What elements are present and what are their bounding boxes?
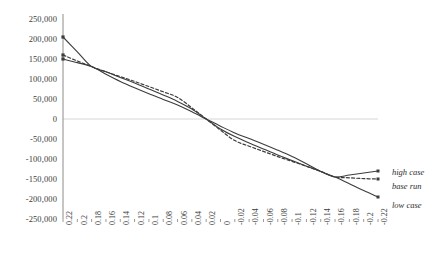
legend-anchor-marker xyxy=(377,170,380,173)
data-series-layer xyxy=(61,35,378,197)
series-line-high-case xyxy=(63,37,378,177)
legend-label-high-case: high case xyxy=(392,167,424,177)
legend-anchor-marker xyxy=(377,196,380,199)
plot-area xyxy=(0,0,444,268)
legend-anchor-marker xyxy=(377,178,380,181)
legend-leader-lines xyxy=(377,170,380,199)
x-axis-ticks xyxy=(63,219,378,222)
series-start-marker xyxy=(61,35,64,38)
legend-label-base-run: base run xyxy=(392,181,422,191)
series-start-marker xyxy=(61,53,64,56)
legend-label-low-case: low case xyxy=(392,200,422,210)
series-start-marker xyxy=(61,57,64,60)
sensitivity-line-chart: 250,000200,000150,000100,00050,0000-50,0… xyxy=(0,0,444,268)
